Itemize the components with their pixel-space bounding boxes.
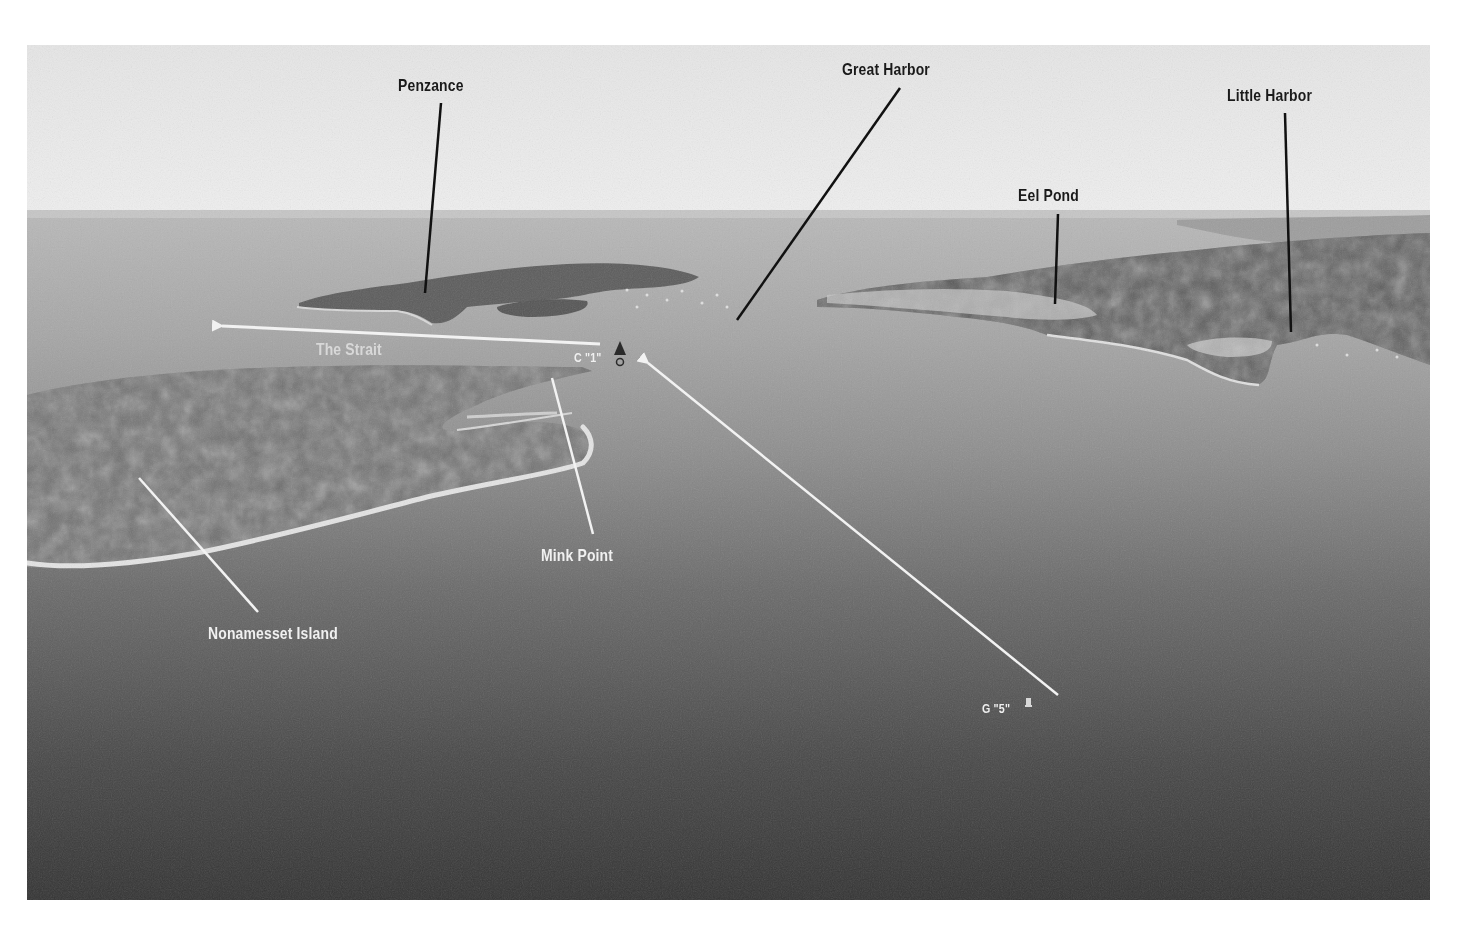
aerial-photo bbox=[27, 45, 1430, 900]
label-great-harbor: Great Harbor bbox=[842, 60, 930, 80]
label-eel-pond: Eel Pond bbox=[1018, 186, 1079, 206]
label-mink-point: Mink Point bbox=[541, 546, 613, 566]
label-penzance: Penzance bbox=[398, 76, 464, 96]
label-c1-buoy: C "1" bbox=[574, 350, 602, 365]
aerial-photo-scene bbox=[27, 45, 1430, 900]
label-g5-buoy: G "5" bbox=[982, 701, 1010, 716]
label-little-harbor: Little Harbor bbox=[1227, 86, 1312, 106]
label-the-strait: The Strait bbox=[316, 340, 382, 360]
label-nonamesset-island: Nonamesset Island bbox=[208, 624, 338, 644]
